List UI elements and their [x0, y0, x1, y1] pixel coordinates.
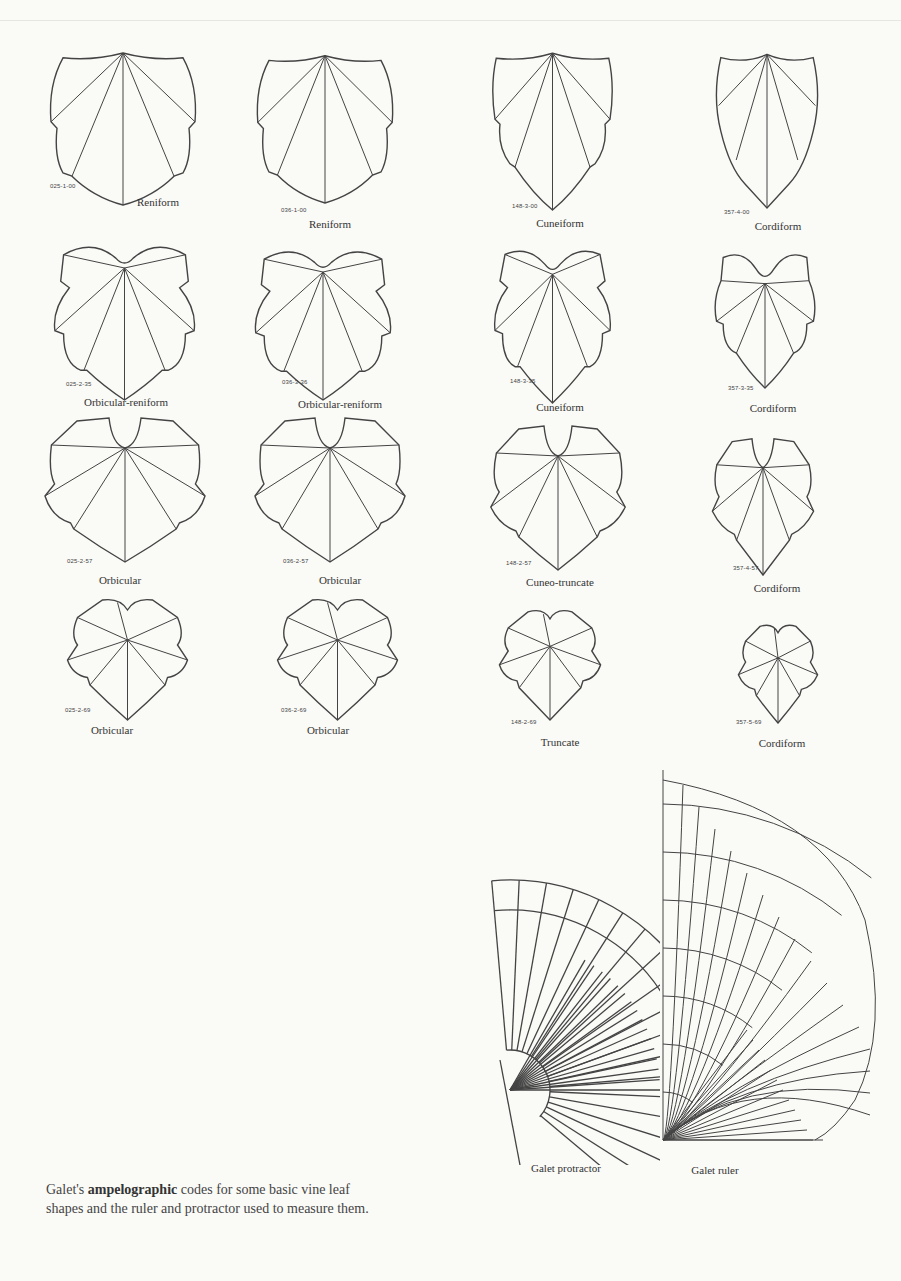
leaf-outline-drawing — [708, 430, 818, 575]
leaf-code: 148-2-69 — [511, 719, 537, 725]
leaf-shape-name: Cordiform — [750, 402, 796, 414]
leaf-shape-name: Orbicular — [99, 574, 141, 586]
caption-prefix: Galet's — [46, 1182, 88, 1197]
leaf-shape-4 — [712, 48, 822, 208]
leaf-outline-drawing — [488, 420, 628, 570]
leaf-shape-10 — [255, 412, 405, 562]
leaf-outline-drawing — [275, 595, 400, 720]
caption-bold-term: ampelographic — [88, 1182, 177, 1197]
leaf-shape-name: Orbicular-reniform — [84, 396, 168, 408]
leaf-shape-7 — [490, 238, 615, 403]
leaf-shape-13 — [65, 595, 190, 720]
leaf-shape-name: Cordiform — [759, 737, 805, 749]
leaf-code: 148-2-57 — [506, 560, 532, 566]
leaf-code: 036-3-36 — [282, 379, 308, 385]
leaf-code: 148-3-35 — [510, 378, 536, 384]
leaf-shape-name: Orbicular — [91, 724, 133, 736]
leaf-code: 357-4-57 — [733, 565, 759, 571]
galet-protractor-drawing — [470, 855, 660, 1165]
leaf-shape-9 — [45, 412, 205, 562]
leaf-outline-drawing — [253, 240, 393, 400]
leaf-code: 025-2-57 — [67, 558, 93, 564]
leaf-code: 357-4-00 — [724, 209, 750, 215]
leaf-shape-name: Cordiform — [755, 220, 801, 232]
leaf-code: 036-2-57 — [283, 558, 309, 564]
leaf-shape-name: Cordiform — [754, 582, 800, 594]
leaf-shape-8 — [710, 243, 820, 388]
leaf-shape-3 — [490, 45, 615, 210]
leaf-shape-16 — [733, 618, 823, 723]
leaf-shape-name: Orbicular — [319, 574, 361, 586]
leaf-outline-drawing — [490, 45, 615, 210]
leaf-shape-name: Orbicular — [307, 724, 349, 736]
leaf-outline-drawing — [255, 48, 395, 203]
figure-caption: Galet's ampelographic codes for some bas… — [46, 1180, 376, 1218]
galet-ruler-drawing — [655, 770, 885, 1150]
leaf-code: 025-1-00 — [50, 183, 76, 189]
leaf-shape-15 — [495, 605, 605, 720]
leaf-shape-6 — [253, 240, 393, 400]
leaf-outline-drawing — [733, 618, 823, 723]
leaf-code: 036-2-69 — [281, 707, 307, 713]
leaf-shape-name: Truncate — [541, 736, 580, 748]
leaf-shape-name: Reniform — [137, 196, 179, 208]
leaf-shape-1 — [48, 45, 198, 205]
leaf-shape-12 — [708, 430, 818, 575]
leaf-outline-drawing — [710, 243, 820, 388]
leaf-shape-name: Orbicular-reniform — [298, 398, 382, 410]
leaf-outline-drawing — [490, 238, 615, 403]
leaf-outline-drawing — [48, 45, 198, 205]
leaf-code: 025-2-35 — [66, 381, 92, 387]
leaf-outline-drawing — [495, 605, 605, 720]
leaf-outline-drawing — [45, 412, 205, 562]
leaf-shape-name: Cuneiform — [536, 401, 584, 413]
leaf-shape-name: Cuneiform — [536, 217, 584, 229]
leaf-shape-name: Reniform — [309, 218, 351, 230]
leaf-code: 148-3-00 — [512, 203, 538, 209]
leaf-code: 036-1-00 — [281, 207, 307, 213]
page-top-rule — [0, 20, 901, 21]
protractor-label: Galet protractor — [531, 1162, 601, 1174]
ruler-label: Galet ruler — [691, 1164, 738, 1176]
leaf-shape-14 — [275, 595, 400, 720]
leaf-outline-drawing — [255, 412, 405, 562]
leaf-code: 025-2-69 — [65, 707, 91, 713]
leaf-outline-drawing — [52, 235, 197, 400]
leaf-shape-2 — [255, 48, 395, 203]
leaf-code: 357-5-69 — [736, 719, 762, 725]
leaf-code: 357-3-35 — [728, 385, 754, 391]
leaf-outline-drawing — [65, 595, 190, 720]
leaf-outline-drawing — [712, 48, 822, 208]
leaf-shape-11 — [488, 420, 628, 570]
leaf-shape-name: Cuneo-truncate — [526, 576, 594, 588]
leaf-shape-5 — [52, 235, 197, 400]
